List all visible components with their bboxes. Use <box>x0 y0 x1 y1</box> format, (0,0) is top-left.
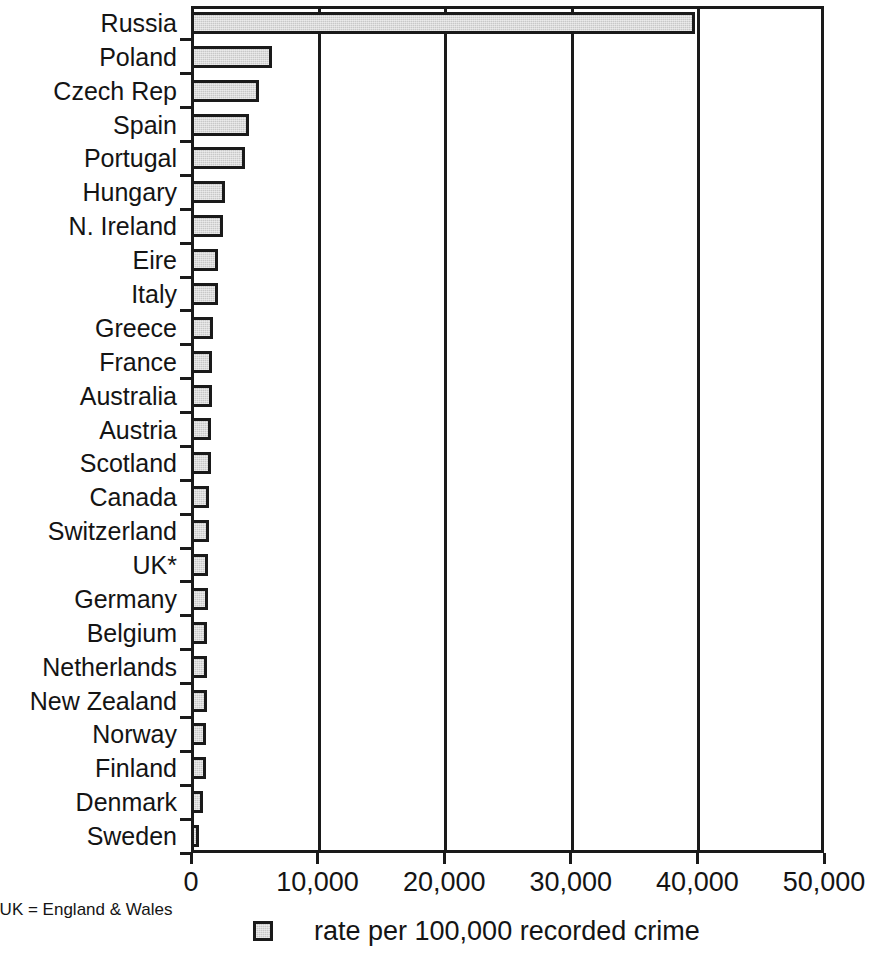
bar-row <box>191 379 824 413</box>
bar-row <box>191 717 824 751</box>
y-axis-tick <box>180 242 191 245</box>
x-axis-tick-label: 50,000 <box>734 866 877 898</box>
bar[interactable] <box>191 588 208 610</box>
y-axis: RussiaPolandCzech RepSpainPortugalHungar… <box>0 6 191 853</box>
bar[interactable] <box>191 486 209 508</box>
bar[interactable] <box>191 825 199 847</box>
y-axis-tick <box>180 614 191 617</box>
y-axis-tick-label: Denmark <box>76 788 177 816</box>
bar-row <box>191 480 824 514</box>
bar-row <box>191 40 824 74</box>
bar[interactable] <box>191 147 245 169</box>
bar-row <box>191 209 824 243</box>
bar-row <box>191 548 824 582</box>
y-axis-tick-label: New Zealand <box>30 687 177 715</box>
bar[interactable] <box>191 215 223 237</box>
bar-row <box>191 616 824 650</box>
bar-row <box>191 785 824 819</box>
bar-row <box>191 243 824 277</box>
bar-row <box>191 413 824 447</box>
y-axis-tick <box>180 411 191 414</box>
y-axis-tick <box>180 750 191 753</box>
y-axis-tick-label: N. Ireland <box>69 212 177 240</box>
x-axis-tick <box>696 853 699 864</box>
bar[interactable] <box>191 46 272 68</box>
y-axis-tick-label: Italy <box>131 280 177 308</box>
bar-row <box>191 684 824 718</box>
bar[interactable] <box>191 723 206 745</box>
bar[interactable] <box>191 656 207 678</box>
y-axis-tick-label: Germany <box>74 585 177 613</box>
bar-row <box>191 6 824 40</box>
y-axis-tick <box>180 38 191 41</box>
bar-row <box>191 108 824 142</box>
y-axis-tick-label: Austria <box>99 416 177 444</box>
bar-row <box>191 751 824 785</box>
y-axis-tick <box>180 208 191 211</box>
y-axis-tick-label: France <box>99 348 177 376</box>
bar-row <box>191 277 824 311</box>
y-axis-tick <box>180 106 191 109</box>
bar-row <box>191 142 824 176</box>
y-axis-tick-label: Sweden <box>87 822 177 850</box>
y-axis-tick <box>180 479 191 482</box>
bar[interactable] <box>191 690 207 712</box>
y-axis-tick <box>180 784 191 787</box>
bar[interactable] <box>191 622 207 644</box>
bar[interactable] <box>191 452 211 474</box>
y-axis-tick <box>180 377 191 380</box>
bar[interactable] <box>191 249 218 271</box>
bar[interactable] <box>191 12 695 34</box>
bar[interactable] <box>191 283 218 305</box>
bar-row <box>191 345 824 379</box>
y-axis-tick-label: Australia <box>80 382 177 410</box>
bar-row <box>191 650 824 684</box>
bar-row <box>191 74 824 108</box>
y-axis-tick-label: Russia <box>101 9 177 37</box>
bar[interactable] <box>191 520 209 542</box>
bar-row <box>191 582 824 616</box>
y-axis-tick-label: Canada <box>89 483 177 511</box>
bar[interactable] <box>191 351 212 373</box>
y-axis-tick <box>180 648 191 651</box>
bar-row <box>191 819 824 853</box>
y-axis-tick <box>180 716 191 719</box>
bar[interactable] <box>191 791 203 813</box>
y-axis-tick <box>180 276 191 279</box>
bar-row <box>191 311 824 345</box>
y-axis-tick <box>180 682 191 685</box>
legend-swatch-icon <box>253 921 273 941</box>
y-axis-tick-label: Poland <box>99 43 177 71</box>
bar-chart: RussiaPolandCzech RepSpainPortugalHungar… <box>0 0 877 954</box>
y-axis-tick <box>180 513 191 516</box>
y-axis-tick <box>180 72 191 75</box>
y-axis-tick-label: Eire <box>133 246 177 274</box>
bar-row <box>191 446 824 480</box>
y-axis-tick <box>180 174 191 177</box>
bar-series <box>191 6 824 853</box>
bar[interactable] <box>191 757 206 779</box>
y-axis-tick-label: Spain <box>113 111 177 139</box>
bar[interactable] <box>191 385 212 407</box>
y-axis-tick <box>180 343 191 346</box>
y-axis-tick-label: Greece <box>95 314 177 342</box>
footnote: *UK = England & Wales <box>0 900 172 920</box>
y-axis-tick-label: Scotland <box>80 449 177 477</box>
bar[interactable] <box>191 554 208 576</box>
bar[interactable] <box>191 80 259 102</box>
y-axis-tick-label: Portugal <box>84 144 177 172</box>
y-axis-tick <box>180 140 191 143</box>
bar-row <box>191 514 824 548</box>
x-axis-tick <box>569 853 572 864</box>
y-axis-tick-label: Finland <box>95 754 177 782</box>
y-axis-tick-label: Switzerland <box>48 517 177 545</box>
y-axis-tick-label: Belgium <box>87 619 177 647</box>
y-axis-tick-label: Netherlands <box>42 653 177 681</box>
bar[interactable] <box>191 317 213 339</box>
y-axis-tick <box>180 580 191 583</box>
y-axis-tick-label: Norway <box>92 720 177 748</box>
x-axis-tick <box>443 853 446 864</box>
bar[interactable] <box>191 181 225 203</box>
bar[interactable] <box>191 114 249 136</box>
bar[interactable] <box>191 418 211 440</box>
